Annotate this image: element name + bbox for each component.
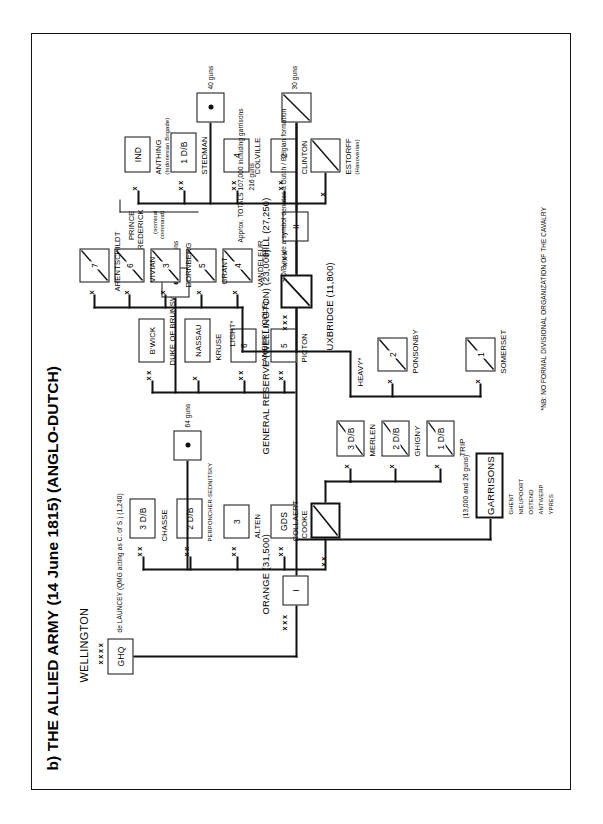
i-cav-br0-line bbox=[440, 469, 442, 483]
res-div-0-echelon: xx bbox=[276, 369, 285, 380]
i-corps-box[interactable]: I bbox=[283, 576, 309, 606]
i-div-0-commander: COOKE bbox=[300, 510, 309, 538]
res-div-3-label: B'WICK bbox=[147, 327, 156, 355]
page-title: b) THE ALLIED ARMY (14 June 1815) (ANGLO… bbox=[44, 366, 62, 771]
i-corps-label: I bbox=[291, 589, 301, 592]
i-corps-arty-line bbox=[187, 461, 189, 571]
light-bar bbox=[242, 307, 244, 353]
i-div-1-box[interactable]: 3 bbox=[224, 505, 250, 539]
light-br3-echelon: x bbox=[122, 289, 131, 295]
garrisons-label: GARRISONS bbox=[484, 456, 495, 515]
ii-corps-artillery-label: 40 guns bbox=[207, 66, 214, 90]
ii-corps-arty-line bbox=[210, 123, 212, 205]
ghq-label: GHQ bbox=[116, 647, 126, 667]
artillery-dot-icon bbox=[208, 105, 213, 110]
i-div-3-label: 3 D/B bbox=[138, 507, 148, 529]
i-corps-artillery-box[interactable] bbox=[174, 431, 202, 461]
i-div-0-echelon: xx bbox=[276, 545, 285, 556]
cavalry-slash-icon bbox=[312, 140, 340, 172]
light-br1-label: 5 bbox=[197, 261, 207, 270]
i-cav-br0-box[interactable]: 1 D/B bbox=[427, 421, 455, 457]
light-br2-echelon: x bbox=[158, 289, 167, 295]
heavy-label: HEAVY* bbox=[356, 357, 365, 386]
light-br2-line bbox=[165, 295, 167, 309]
i-div-1-echelon: xx bbox=[229, 545, 238, 556]
garrisons-strength: (13,000 and 26 guns) bbox=[462, 455, 469, 519]
ghq-stem bbox=[134, 655, 298, 657]
i-div-2-commander: PERPONCHER-SEDNITSKY bbox=[207, 463, 213, 542]
res-div-2-commander: KRUSE bbox=[214, 334, 223, 361]
i-cav-br2-box[interactable]: 3 D/B bbox=[337, 421, 365, 457]
res-div-3-box[interactable]: B'WICK bbox=[139, 319, 165, 363]
light-br2-label: 3 bbox=[161, 261, 171, 270]
cavalry-slash-icon bbox=[313, 505, 339, 537]
heavy-br0-commander: SOMERSET bbox=[499, 330, 508, 374]
reserve-riser bbox=[152, 391, 296, 393]
light-br0-echelon: x bbox=[230, 289, 239, 295]
ii-div-2-label: 1 D/B bbox=[179, 141, 189, 163]
i-cav-br1-label: 2 D/B bbox=[391, 426, 401, 450]
i-cav-commander: COLLAERT bbox=[291, 500, 300, 541]
i-corps-riser bbox=[143, 568, 296, 570]
light-br1-echelon: x bbox=[194, 289, 203, 295]
i-div-3-box[interactable]: 3 D/B bbox=[130, 499, 156, 539]
light-br3-commander: VIVIAN bbox=[148, 257, 157, 283]
dutch-belgian-footnote: + D/B inside a symbol denotes a Dutch / … bbox=[280, 109, 287, 283]
light-br4-label: 7 bbox=[90, 261, 100, 270]
res-div-0-commander: PICTON bbox=[300, 333, 309, 362]
garrison-place-4: YPRES bbox=[548, 494, 554, 514]
heavy-bus bbox=[350, 395, 482, 397]
ii-cav-box[interactable] bbox=[311, 139, 341, 173]
ii-corps-artillery-box[interactable] bbox=[197, 93, 225, 123]
heavy-br0-label: 1 bbox=[476, 350, 486, 359]
light-br4-echelon: x bbox=[87, 289, 96, 295]
i-cav-bus2 bbox=[325, 480, 352, 482]
ii-div-2-box[interactable]: 1 D/B bbox=[171, 133, 197, 173]
i-div-2-box[interactable]: 2 D/B bbox=[177, 499, 203, 539]
light-br4-box[interactable]: 7 bbox=[80, 249, 110, 283]
diagram-canvas: b) THE ALLIED ARMY (14 June 1815) (ANGLO… bbox=[32, 34, 572, 791]
cav-corps-header: UXBRIDGE (11,800) bbox=[324, 262, 335, 350]
ghq-box[interactable]: GHQ bbox=[108, 639, 134, 675]
ii-div-2-echelon: xx bbox=[176, 179, 185, 190]
heavy-br1-commander: PONSONBY bbox=[411, 329, 420, 373]
light-br0-line bbox=[237, 295, 239, 309]
reserve-branch-1 bbox=[198, 381, 200, 394]
heavy-spine-join bbox=[296, 308, 298, 353]
res-div-2-echelon: x bbox=[190, 375, 199, 381]
garrison-place-0: GHENT bbox=[508, 493, 514, 514]
heavy-br0-box[interactable]: 1 bbox=[466, 338, 496, 372]
i-cav-br1-commander: GHIGNY bbox=[413, 426, 422, 457]
heavy-bar bbox=[350, 352, 352, 398]
ii-cav-drop bbox=[296, 202, 326, 204]
light-br1-line bbox=[201, 295, 203, 309]
light-label: LIGHT* bbox=[228, 320, 237, 346]
i-corps-artillery-label: 64 guns bbox=[184, 404, 191, 428]
light-br0-label: 4 bbox=[233, 261, 243, 270]
res-div-2-box[interactable]: NASSAU bbox=[185, 319, 211, 363]
i-div-0-label: GDS bbox=[279, 512, 289, 531]
light-br3-label: 6 bbox=[125, 261, 135, 270]
ghq-echelon: xxxx bbox=[96, 642, 105, 665]
res-div-3-echelon: xx bbox=[144, 369, 153, 380]
heavy-br1-box[interactable]: 2 bbox=[378, 338, 408, 372]
heavy-br1-line bbox=[392, 384, 394, 398]
res-div-0-box[interactable]: 5 bbox=[271, 329, 297, 363]
i-cav-box[interactable] bbox=[311, 503, 341, 539]
i-corps-branch-b2 bbox=[237, 557, 239, 571]
garrison-place-2: OSTEND bbox=[528, 489, 534, 514]
cav-corps-echelon: xxx bbox=[280, 313, 289, 330]
i-cav-br2-commander: MERLEN bbox=[368, 424, 377, 457]
garrisons-box[interactable]: GARRISONS bbox=[476, 453, 504, 519]
ii-cav-connector bbox=[325, 173, 327, 205]
reserve-branch-0 bbox=[152, 381, 154, 394]
garrison-place-1: NIEUPOORT bbox=[518, 479, 524, 515]
i-cav-br2-label: 3 D/B bbox=[346, 426, 356, 450]
i-corps-header: ORANGE (31,500) bbox=[260, 534, 271, 614]
ii-div-3-subname: (Indonesian Brigade) bbox=[164, 118, 170, 175]
i-cav-br1-box[interactable]: 2 D/B bbox=[382, 421, 410, 457]
ii-div-3-box[interactable]: IND bbox=[125, 137, 151, 173]
i-div-1-commander: ALTEN bbox=[253, 514, 262, 539]
ii-div-0-commander: CLINTON bbox=[300, 140, 309, 174]
light-br0-commander: VANDELEUR bbox=[256, 240, 265, 287]
